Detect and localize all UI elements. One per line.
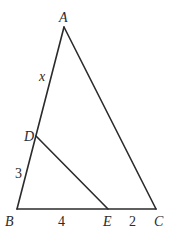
measure-ec: 2 xyxy=(129,214,136,229)
vertex-label-d: D xyxy=(23,129,34,144)
measure-ad: x xyxy=(38,69,46,84)
vertex-label-b: B xyxy=(5,214,14,229)
vertex-label-e: E xyxy=(102,214,112,229)
vertex-label-a: A xyxy=(58,10,68,25)
vertex-label-c: C xyxy=(154,214,164,229)
segment-ab xyxy=(17,27,64,209)
measure-be: 4 xyxy=(58,214,65,229)
segment-de xyxy=(36,136,108,209)
triangle-diagram: A B C D E x 3 4 2 xyxy=(0,0,175,233)
segment-ac xyxy=(64,27,156,209)
measure-db: 3 xyxy=(15,166,22,181)
